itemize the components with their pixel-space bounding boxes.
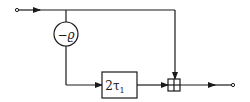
delay-subscript: 1 [120, 86, 125, 95]
gain-label: −ϱ [57, 28, 74, 42]
adder-node [168, 79, 180, 91]
delay-block: 2τ1 [102, 72, 137, 98]
feedforward-path [19, 10, 176, 79]
gain-node: −ϱ [54, 22, 78, 46]
output-terminal [231, 83, 234, 86]
gain-to-delay-path [66, 46, 102, 85]
delay-label: 2τ [105, 79, 120, 93]
input-terminal [15, 8, 18, 11]
block-diagram: −ϱ 2τ1 [0, 0, 250, 102]
